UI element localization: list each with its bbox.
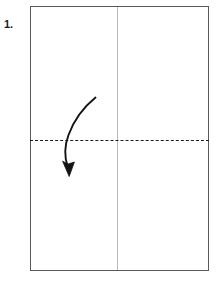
step-number-label: 1. — [4, 18, 13, 30]
origami-step-diagram: 1. — [0, 0, 216, 281]
figure-caption — [0, 274, 216, 281]
fold-down-arrow-icon — [52, 88, 108, 184]
vertical-center-crease-line — [117, 7, 118, 270]
